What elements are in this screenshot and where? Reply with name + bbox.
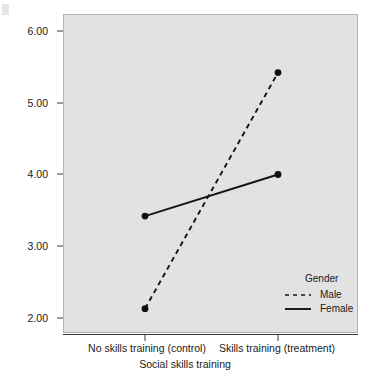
legend-title: Gender xyxy=(283,272,353,286)
legend-label-female: Female xyxy=(320,302,353,316)
x-axis-title: Social skills training xyxy=(0,358,370,370)
y-tick-mark-5 xyxy=(57,103,63,104)
y-tick-label-4: 4.00 xyxy=(0,168,48,180)
legend-label-male: Male xyxy=(320,288,342,302)
y-tick-mark-6 xyxy=(57,31,63,32)
figure: Mean number of appropriate interactions … xyxy=(0,0,370,381)
x-tick-label-control: No skills training (control) xyxy=(88,342,206,354)
y-tick-label-3: 3.00 xyxy=(0,240,48,252)
y-tick-label-5: 5.00 xyxy=(0,97,48,109)
solid-line-icon xyxy=(283,304,313,314)
y-tick-mark-4 xyxy=(57,174,63,175)
x-tick-mark-control xyxy=(145,335,146,341)
dashed-line-icon xyxy=(283,290,313,300)
legend-item-female[interactable]: Female xyxy=(283,302,353,316)
legend-item-male[interactable]: Male xyxy=(283,288,353,302)
x-tick-mark-treatment xyxy=(278,335,279,341)
legend: Gender Male Female xyxy=(283,272,353,316)
y-tick-mark-3 xyxy=(57,246,63,247)
y-tick-label-2: 2.00 xyxy=(0,312,48,324)
scan-artifact xyxy=(2,4,9,15)
y-tick-mark-2 xyxy=(57,318,63,319)
x-axis-line xyxy=(63,334,358,335)
x-tick-label-treatment: Skills training (treatment) xyxy=(219,342,335,354)
y-tick-label-6: 6.00 xyxy=(0,25,48,37)
